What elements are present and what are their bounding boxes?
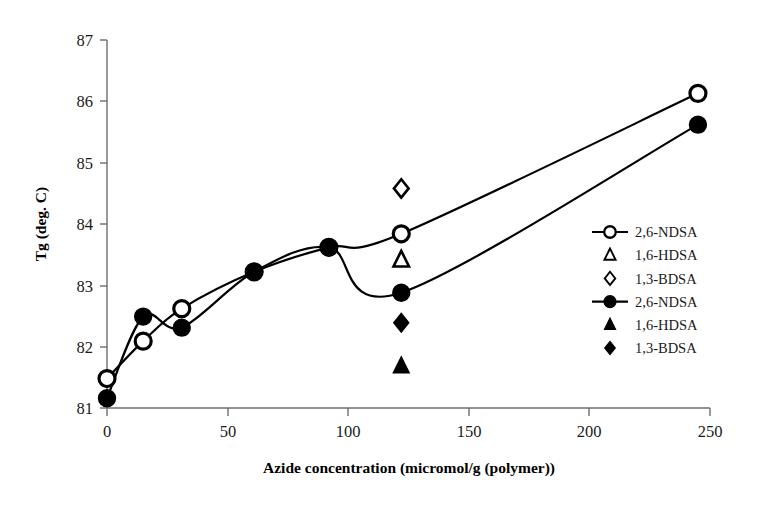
y-tick-label-81: 81 [77, 399, 94, 418]
marker-filled-circle [393, 284, 409, 300]
y-tick-label-83: 83 [77, 277, 94, 296]
marker-open-circle [99, 371, 115, 387]
legend-label-1: 1,6-HDSA [635, 247, 698, 263]
marker-filled-circle [321, 239, 337, 255]
legend-marker-filled-circle [604, 296, 616, 308]
marker-open-circle [135, 333, 151, 349]
x-axis-title: Azide concentration (micromol/g (polymer… [263, 459, 555, 477]
marker-filled-circle [246, 264, 262, 280]
chart-figure: 87 86 85 84 83 82 81 0 50 100 150 200 25… [0, 0, 764, 508]
y-tick-label-82: 82 [77, 338, 94, 357]
legend-label-5: 1,3-BDSA [635, 340, 697, 356]
x-tick-label-200: 200 [577, 422, 602, 441]
marker-open-circle [690, 85, 706, 101]
legend-label-4: 1,6-HDSA [635, 317, 698, 333]
marker-open-circle [393, 226, 409, 242]
x-tick-label-100: 100 [336, 422, 361, 441]
y-tick-label-85: 85 [77, 154, 94, 173]
legend-label-2: 1,3-BDSA [635, 271, 697, 287]
x-tick-label-0: 0 [103, 422, 111, 441]
x-tick-label-250: 250 [698, 422, 723, 441]
legend-label-0: 2,6-NDSA [635, 224, 698, 240]
legend-entry-3: 2,6-NDSA [592, 294, 698, 310]
marker-filled-circle [99, 390, 115, 406]
x-tick-label-50: 50 [220, 422, 237, 441]
y-tick-label-84: 84 [77, 215, 94, 234]
legend-entry-0: 2,6-NDSA [592, 224, 698, 240]
marker-open-circle [174, 301, 190, 317]
y-tick-label-87: 87 [77, 31, 94, 50]
y-axis-title: Tg (deg. C) [32, 187, 50, 261]
x-tick-label-150: 150 [457, 422, 482, 441]
y-tick-label-86: 86 [77, 92, 94, 111]
marker-filled-circle [135, 308, 151, 324]
marker-filled-circle [174, 319, 190, 335]
legend-marker-open-circle [604, 226, 616, 238]
legend-label-3: 2,6-NDSA [635, 294, 698, 310]
marker-filled-circle [690, 116, 706, 132]
